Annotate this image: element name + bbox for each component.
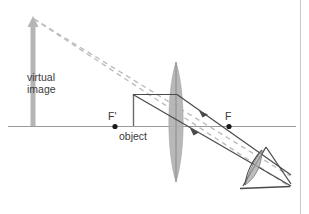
virtual-image-label-line1: virtual: [27, 71, 55, 83]
optics-ray-diagram: virtual image F' F object: [0, 0, 309, 214]
focal-point-f-label: F: [225, 110, 231, 122]
focal-point-f-prime-dot: [112, 124, 117, 129]
figure-canvas: virtual image F' F object: [0, 0, 309, 214]
focal-point-f-prime-label: F': [108, 110, 116, 122]
object-label: object: [119, 130, 147, 142]
virtual-image-label-line2: image: [27, 83, 56, 95]
focal-point-f-dot: [226, 124, 231, 129]
